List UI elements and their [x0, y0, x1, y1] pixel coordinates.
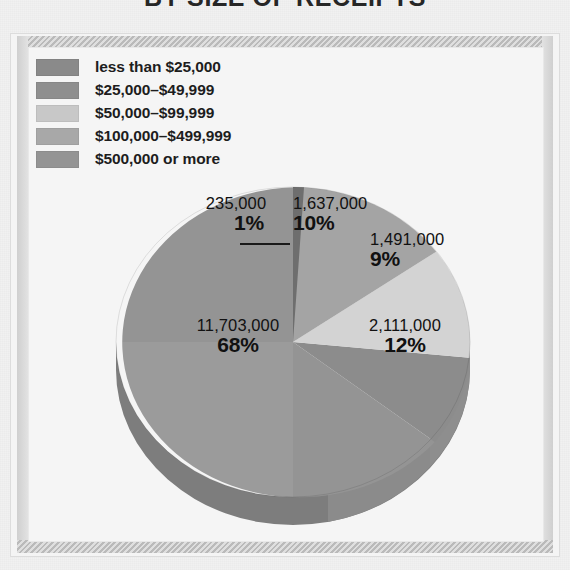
legend-swatch-icon	[36, 59, 79, 76]
legend-item-50000-99999[interactable]: $50,000–$99,999	[36, 102, 316, 124]
pie-label-100000-499999: 1,637,000 10%	[293, 195, 401, 235]
pie-label-value: 1,637,000	[293, 195, 401, 212]
pie-label-value: 1,491,000	[370, 231, 474, 248]
pie-label-value: 2,111,000	[350, 317, 460, 334]
page-title: BY SIZE OF RECEIPTS	[0, 0, 570, 12]
pie-label-percent: 1%	[186, 212, 286, 234]
legend-item-500000-or-more[interactable]: $500,000 or more	[36, 148, 316, 170]
legend-swatch-icon	[36, 151, 79, 168]
pie-label-less-than-25000: 11,703,000 68%	[168, 317, 308, 357]
pie-leader-line	[240, 243, 290, 245]
legend-item-label: $50,000–$99,999	[95, 104, 214, 122]
chart-legend: less than $25,000 $25,000–$49,999 $50,00…	[36, 56, 316, 171]
pie-label-percent: 68%	[168, 334, 308, 356]
legend-swatch-icon	[36, 105, 79, 122]
legend-item-less-than-25000[interactable]: less than $25,000	[36, 56, 316, 78]
chart-frame-band-left	[17, 36, 28, 553]
legend-item-label: $500,000 or more	[95, 150, 220, 168]
pie-label-25000-49999: 2,111,000 12%	[350, 317, 460, 357]
pie-label-value: 11,703,000	[168, 317, 308, 334]
pie-label-percent: 9%	[370, 248, 474, 270]
legend-item-25000-49999[interactable]: $25,000–$49,999	[36, 79, 316, 101]
legend-item-100000-499999[interactable]: $100,000–$499,999	[36, 125, 316, 147]
legend-item-label: less than $25,000	[95, 58, 221, 76]
pie-highlight	[116, 342, 293, 497]
pie-label-500000-or-more: 235,000 1%	[186, 195, 286, 235]
pie-label-percent: 12%	[350, 334, 460, 356]
pie-label-value: 235,000	[186, 195, 286, 212]
legend-item-label: $100,000–$499,999	[95, 127, 231, 145]
legend-swatch-icon	[36, 82, 79, 99]
legend-item-label: $25,000–$49,999	[95, 81, 214, 99]
legend-swatch-icon	[36, 128, 79, 145]
pie-label-50000-99999: 1,491,000 9%	[370, 231, 474, 271]
